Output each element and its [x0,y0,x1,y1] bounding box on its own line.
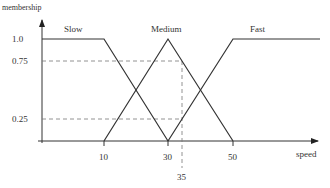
fuzzy-membership-diagram: membership speed 1.0 0.75 0.25 10 30 50 … [0,0,330,188]
y-tick-label-1-0: 1.0 [12,34,24,44]
set-label-medium: Medium [151,24,182,34]
x-tick-label-30: 30 [163,152,173,162]
x-highlight-label-35: 35 [177,172,187,182]
y-tick-label-0-25: 0.25 [12,114,28,124]
x-tick-label-10: 10 [99,152,109,162]
y-axis-label: membership [2,3,42,12]
slow-membership-line [42,39,168,141]
x-tick-label-50: 50 [228,152,238,162]
set-label-slow: Slow [64,24,83,34]
fast-membership-line [168,39,320,141]
set-label-fast: Fast [250,24,266,34]
y-tick-label-0-75: 0.75 [12,56,28,66]
medium-membership-line [104,39,233,141]
x-axis-label: speed [296,149,317,159]
